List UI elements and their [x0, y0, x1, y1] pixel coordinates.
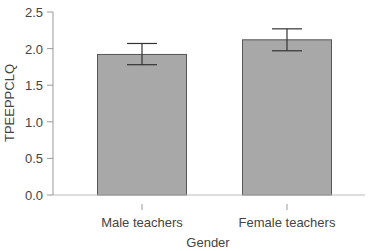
- y-axis-title: TPEEPPCLQ: [2, 64, 17, 142]
- x-tick-label: Female teachers: [239, 215, 336, 230]
- bar-chart: 0.00.51.01.52.02.5 Male teachersFemale t…: [0, 0, 376, 251]
- y-tick-label: 0.5: [25, 151, 43, 166]
- bars: [98, 29, 332, 195]
- y-axis: 0.00.51.01.52.02.5: [25, 5, 53, 203]
- y-tick-label: 0.0: [25, 188, 43, 203]
- x-axis-title: Gender: [186, 235, 230, 250]
- y-tick-label: 2.0: [25, 42, 43, 57]
- bar-group: [98, 43, 187, 195]
- y-tick-label: 1.5: [25, 78, 43, 93]
- y-tick-label: 1.0: [25, 115, 43, 130]
- bar: [98, 54, 187, 195]
- bar: [243, 40, 332, 195]
- x-axis: Male teachersFemale teachers: [53, 195, 365, 230]
- bar-group: [243, 29, 332, 195]
- x-tick-label: Male teachers: [101, 215, 183, 230]
- y-tick-label: 2.5: [25, 5, 43, 20]
